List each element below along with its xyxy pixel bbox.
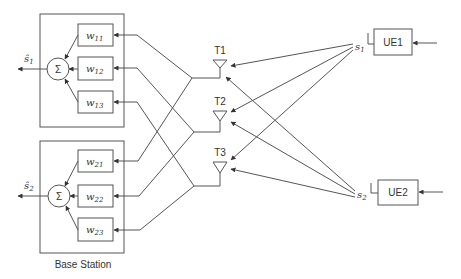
user-ue1: s1 UE1 [355, 29, 437, 55]
antenna-t2: T2 [213, 96, 227, 132]
sum-symbol-2: Σ [56, 191, 62, 202]
antenna-icon [213, 111, 227, 132]
signal-paths [226, 44, 355, 197]
base-station-label: Base Station [55, 259, 112, 270]
antenna-t1: T1 [213, 45, 227, 78]
antenna-t3: T3 [213, 147, 227, 186]
ue2-label: UE2 [388, 187, 408, 198]
antenna-label-t3: T3 [214, 147, 226, 158]
combiner-1: Σ ŝ1 w11 w12 w13 [18, 14, 124, 127]
antenna-label-t2: T2 [214, 96, 226, 107]
signal-label-s1: s1 [355, 41, 365, 54]
user-ue2: s2 UE2 [357, 180, 443, 205]
diagram-canvas: Σ ŝ1 w11 w12 w13 Σ ŝ2 w21 w22 w23 Base S… [0, 0, 461, 279]
antenna-icon [213, 162, 227, 186]
antenna-icon [213, 60, 227, 78]
antenna-routing [114, 35, 220, 230]
output-label-1: ŝ1 [24, 53, 34, 66]
antenna-label-t1: T1 [214, 45, 226, 56]
output-label-2: ŝ2 [24, 180, 34, 193]
signal-label-s2: s2 [357, 189, 367, 202]
sum-symbol-1: Σ [55, 64, 61, 75]
combiner-2: Σ ŝ2 w21 w22 w23 [18, 141, 124, 253]
ue1-label: UE1 [383, 37, 403, 48]
